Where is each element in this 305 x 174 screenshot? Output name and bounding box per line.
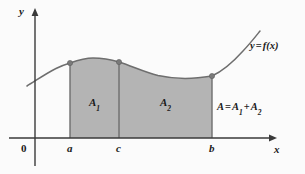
region-a1-subscript: 1 bbox=[96, 104, 100, 113]
curve-label-lhs: y bbox=[250, 40, 255, 51]
curve-point-b bbox=[209, 73, 214, 78]
y-axis-label: y bbox=[19, 6, 24, 17]
figure-canvas bbox=[0, 0, 305, 174]
x-axis-label: x bbox=[274, 144, 280, 155]
origin-label: 0 bbox=[21, 143, 27, 154]
region-a2-subscript: 2 bbox=[167, 104, 171, 113]
curve-label-rhs: f(x) bbox=[263, 40, 279, 51]
region-label-a2: A2 bbox=[160, 97, 171, 111]
area-equation-term1-subscript: 1 bbox=[239, 108, 243, 117]
y-axis-arrowhead bbox=[32, 8, 39, 16]
area-equation-term2: A bbox=[251, 101, 258, 112]
area-equation-lead: A bbox=[217, 101, 224, 112]
area-equation-plus: + bbox=[243, 101, 251, 112]
curve-label: y=f(x) bbox=[250, 41, 278, 52]
curve-point-a bbox=[67, 60, 72, 65]
tick-label-b: b bbox=[209, 143, 215, 154]
area-under-curve-figure: y x 0 a c b A1 A2 y=f(x) A=A1+A2 bbox=[0, 0, 305, 174]
area-equation-term2-subscript: 2 bbox=[258, 108, 262, 117]
area-equation: A=A1+A2 bbox=[217, 102, 262, 115]
tick-label-c: c bbox=[116, 143, 121, 154]
tick-label-a: a bbox=[67, 143, 73, 154]
x-axis-arrowhead bbox=[269, 135, 277, 142]
curve-point-c bbox=[116, 59, 121, 64]
area-equation-equals: = bbox=[224, 101, 232, 112]
area-equation-term1: A bbox=[232, 101, 239, 112]
curve-label-operator: = bbox=[255, 40, 263, 51]
region-label-a1: A1 bbox=[89, 97, 100, 111]
